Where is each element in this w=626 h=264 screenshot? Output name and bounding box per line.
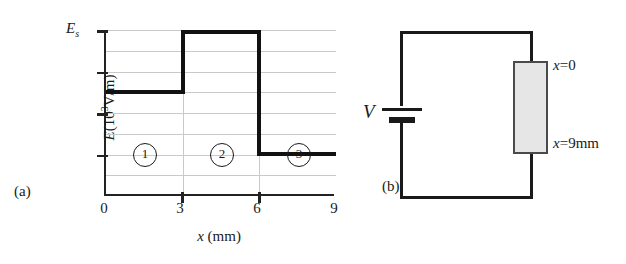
panel-b-tag: (b) [382,178,400,195]
wire-right-lower [530,154,533,199]
resistor-block [513,61,548,154]
wire-left-upper [400,31,403,106]
panel-a-tag: (a) [14,183,31,200]
panel-a-chart: (a) Es E(103V/m) [0,0,370,264]
gridline [106,72,336,73]
gridline [106,51,336,52]
y-axis-tick [97,113,108,116]
curve-segment-region-1 [106,90,185,94]
figure-root: (a) Es E(103V/m) [0,0,626,264]
region-badge-1: 1 [133,143,157,167]
region-badge-2: 2 [210,143,234,167]
gridline [106,113,336,114]
x-axis-tick-label-9: 9 [321,200,347,217]
voltage-source-label: V [363,101,375,123]
plot-area: E(103V/m) [104,30,334,196]
region-badge-3: 3 [287,143,311,167]
wire-right-upper [530,31,533,61]
x-axis-tick-label-0: 0 [91,200,117,217]
panel-b-circuit: (b) V x=0 x=9mm [370,0,626,264]
x-axis-title: x (mm) [104,228,334,245]
curve-segment-region-2 [181,30,262,34]
curve-segment-rise-1-to-2 [181,30,185,94]
y-axis-tick [97,72,108,75]
gridline [106,175,336,176]
y-axis-title: E(103V/m) [99,18,118,198]
wire-top [400,31,533,34]
y-axis-tick [97,155,108,158]
gridline [106,134,336,135]
curve-segment-fall-2-to-3 [257,30,261,156]
y-axis-tick [97,30,108,33]
x-axis-tick-label-6: 6 [244,200,270,217]
label-x-equals-0: x=0 [553,57,576,74]
y-axis-top-label: Es [66,20,79,39]
battery-negative-plate-icon [389,117,415,123]
wire-left-lower [400,122,403,199]
label-x-equals-9mm: x=9mm [553,135,599,152]
x-axis-tick-label-3: 3 [167,200,193,217]
battery-positive-plate-icon [382,108,422,111]
wire-bottom [400,196,533,199]
